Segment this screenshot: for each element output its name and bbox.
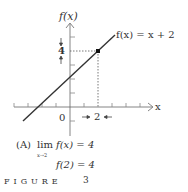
value-expression: f(2) = 4 (56, 160, 95, 170)
caption-part-label: (A) (16, 140, 31, 150)
y-marker-label: 4 (58, 46, 65, 56)
function-line (23, 35, 115, 121)
limit-subscript: x→2 (37, 153, 47, 158)
highlighted-point (96, 49, 100, 53)
origin-label: 0 (59, 113, 65, 123)
limit-expression: f(x) = 4 (56, 140, 94, 150)
y-ticks (70, 37, 75, 121)
function-label: f(x) = x + 2 (116, 30, 175, 40)
x-axis-label: x (155, 102, 161, 112)
y-axis-label: f(x) (59, 11, 78, 22)
figure-word: FIGURE (4, 178, 62, 186)
limit-word: lim (37, 140, 53, 150)
figure-number: 3 (83, 176, 89, 185)
x-marker-label: 2 (94, 112, 100, 122)
x-ticks (14, 103, 140, 107)
